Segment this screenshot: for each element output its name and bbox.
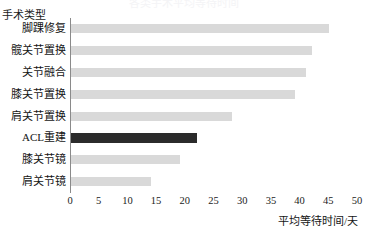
x-tick-label: 10 — [122, 195, 133, 206]
x-tick-label: 45 — [323, 195, 334, 206]
category-label: 肩关节镜 — [22, 171, 66, 193]
bar-chart: 各类手术平均等待时间 手术类型 脚踝修复 髋关节置换 关节融合 膝关节置换 肩关… — [0, 0, 368, 232]
chart-title: 各类手术平均等待时间 — [0, 0, 368, 9]
bar-segment[interactable] — [71, 46, 312, 55]
bar-segment-highlight[interactable] — [71, 133, 197, 143]
category-label: ACL重建 — [22, 127, 66, 149]
bar-segment[interactable] — [71, 24, 329, 33]
x-tick-label: 0 — [67, 195, 72, 206]
bar-segment[interactable] — [71, 155, 180, 164]
category-label: 髋关节置换 — [11, 40, 66, 62]
bar-segment[interactable] — [71, 90, 295, 99]
category-label: 关节融合 — [22, 62, 66, 84]
y-axis-line — [70, 18, 71, 193]
x-tick-label: 20 — [180, 195, 191, 206]
category-label: 脚踝修复 — [22, 18, 66, 40]
category-label: 膝关节镜 — [22, 149, 66, 171]
x-axis-title: 平均等待时间/天 — [70, 212, 358, 228]
bar-segment[interactable] — [71, 177, 151, 186]
x-tick-label: 50 — [352, 195, 363, 206]
x-tick-label: 40 — [294, 195, 305, 206]
category-label: 肩关节置换 — [11, 106, 66, 128]
x-tick-label: 35 — [266, 195, 277, 206]
bar-segment[interactable] — [71, 68, 306, 77]
category-label: 膝关节置换 — [11, 84, 66, 106]
x-axis-ticks: 0 5 10 15 20 25 30 35 40 45 50 — [70, 195, 358, 211]
x-tick-label: 15 — [151, 195, 162, 206]
x-axis-line — [70, 193, 358, 194]
plot-area: 脚踝修复 髋关节置换 关节融合 膝关节置换 肩关节置换 ACL重建 膝关节镜 — [70, 18, 358, 193]
x-tick-label: 25 — [208, 195, 219, 206]
x-tick-label: 30 — [237, 195, 248, 206]
bar-segment[interactable] — [71, 112, 232, 121]
x-tick-label: 5 — [96, 195, 101, 206]
